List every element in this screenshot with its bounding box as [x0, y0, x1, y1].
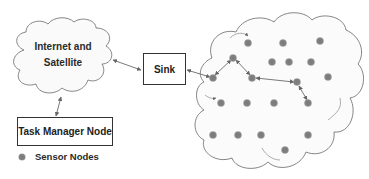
sensor-node-icon	[324, 73, 332, 81]
sensor-node-icon	[281, 146, 289, 154]
legend-sensor-dot-icon	[18, 153, 25, 160]
sensor-node-icon	[234, 131, 242, 139]
sensor-node-icon	[304, 99, 312, 107]
sensor-node-icon	[270, 99, 278, 107]
sink-label: Sink	[154, 64, 175, 75]
task-manager-label: Task Manager Node	[18, 126, 112, 137]
link-arrow	[56, 97, 61, 116]
sink-node-box[interactable]: Sink	[143, 53, 186, 85]
sensor-field-cloud-shape	[195, 13, 364, 169]
sensor-node-icon	[244, 39, 252, 47]
sensor-node-icon	[209, 131, 217, 139]
sensor-node-icon	[248, 74, 256, 82]
legend-sensor-nodes-label: Sensor Nodes	[35, 151, 99, 162]
sensor-node-icon	[279, 39, 287, 47]
internet-cloud-label-line1: Internet and	[26, 41, 100, 52]
sensor-node-icon	[209, 74, 217, 82]
sensor-node-icon	[243, 99, 251, 107]
sensor-node-icon	[316, 37, 324, 45]
sensor-node-icon	[268, 58, 276, 66]
sensor-node-icon	[307, 58, 315, 66]
task-manager-node-box[interactable]: Task Manager Node	[17, 117, 113, 146]
sensor-node-icon	[285, 58, 293, 66]
internet-cloud-label-line2: Satellite	[26, 57, 100, 68]
sensor-node-icon	[229, 54, 237, 62]
sensor-node-icon	[217, 99, 225, 107]
sensor-node-icon	[293, 78, 301, 86]
sensor-node-icon	[304, 131, 312, 139]
internet-cloud-shape	[14, 18, 112, 93]
sensor-node-icon	[257, 131, 265, 139]
link-arrow	[113, 60, 141, 70]
